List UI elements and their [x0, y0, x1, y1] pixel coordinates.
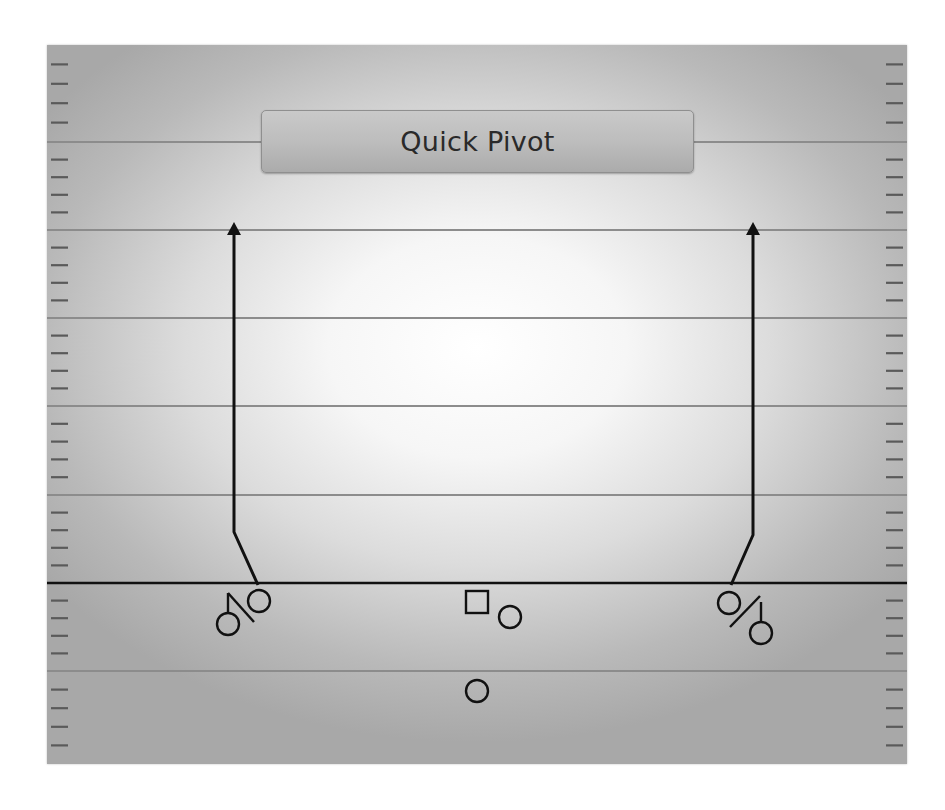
right-receiver-circle-icon [718, 592, 740, 614]
quarterback-circle-icon [466, 680, 488, 702]
right-slot-circle-icon [750, 622, 772, 644]
right-route [731, 232, 753, 585]
left-receiver-circle-icon [248, 590, 270, 612]
play-title: Quick Pivot [400, 126, 555, 157]
arrowhead-icon [227, 222, 241, 235]
play-diagram-canvas: Quick Pivot [0, 0, 945, 810]
players [217, 590, 772, 702]
left-route [234, 232, 258, 585]
left-slot-circle-icon [217, 613, 239, 635]
center-square-icon [466, 591, 488, 613]
play-title-banner: Quick Pivot [261, 110, 694, 173]
block-marks [228, 593, 760, 627]
routes [227, 222, 760, 585]
right-guard-circle-icon [499, 606, 521, 628]
arrowhead-icon [746, 222, 760, 235]
